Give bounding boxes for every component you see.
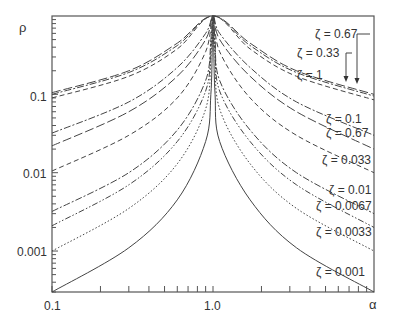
x-tick-label: 0.1	[44, 300, 61, 312]
x-tick-label: 1.0	[204, 300, 221, 312]
y-tick-label: 0.01	[23, 168, 46, 180]
curve-label: ζ = 0.0033	[316, 226, 372, 238]
annotation-arrows	[344, 34, 371, 84]
y-axis-label: ρ	[19, 22, 26, 34]
curve-label: ζ = 0.1	[326, 113, 362, 125]
curve-label: ζ = 0.0067	[316, 200, 372, 212]
curve-label: ζ = 1	[297, 69, 323, 81]
y-tick-label: 0.001	[17, 246, 47, 258]
curve-label: ζ = 0.67	[326, 127, 368, 139]
curve-label: ζ = 0.033	[322, 154, 371, 166]
x-axis-label: α	[369, 299, 377, 311]
curve-label: ζ = 0.001	[316, 266, 365, 278]
curve-label: ζ = 0.01	[329, 184, 371, 196]
curve-label: ζ = 0.33	[297, 47, 339, 59]
curve-label: ζ = 0.67	[315, 28, 357, 40]
y-tick-label: 0.1	[30, 91, 47, 103]
